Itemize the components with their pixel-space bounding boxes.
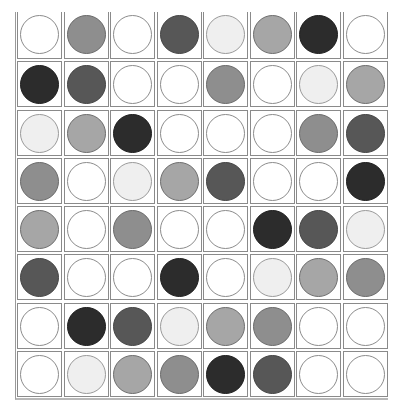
- board-cell-r5-c5[interactable]: [203, 206, 248, 252]
- piece-dark-icon: [299, 210, 338, 249]
- board-cell-r6-c4[interactable]: [157, 254, 202, 300]
- piece-white-icon: [160, 210, 199, 249]
- piece-white-icon: [206, 114, 245, 153]
- board-cell-r7-c1[interactable]: [17, 303, 62, 349]
- piece-white-icon: [20, 15, 59, 54]
- board-cell-r3-c2[interactable]: [64, 110, 109, 156]
- board-cell-r3-c6[interactable]: [250, 110, 295, 156]
- board-cell-r4-c5[interactable]: [203, 158, 248, 204]
- piece-light-icon: [20, 114, 59, 153]
- board-cell-r8-c7[interactable]: [296, 351, 341, 397]
- board-cell-r1-c4[interactable]: [157, 12, 202, 59]
- board-cell-r5-c7[interactable]: [296, 206, 341, 252]
- piece-medium-icon: [67, 15, 106, 54]
- board-cell-r2-c5[interactable]: [203, 61, 248, 107]
- board-cell-r3-c3[interactable]: [110, 110, 155, 156]
- piece-darkest-icon: [160, 258, 199, 297]
- board-cell-r5-c3[interactable]: [110, 206, 155, 252]
- board-cell-r7-c8[interactable]: [343, 303, 388, 349]
- board-cell-r7-c6[interactable]: [250, 303, 295, 349]
- board-cell-r4-c6[interactable]: [250, 158, 295, 204]
- board-cell-r8-c5[interactable]: [203, 351, 248, 397]
- board-cell-r1-c5[interactable]: [203, 12, 248, 59]
- board-cell-r8-c2[interactable]: [64, 351, 109, 397]
- piece-dark-icon: [67, 65, 106, 104]
- piece-white-icon: [299, 162, 338, 201]
- board-cell-r4-c8[interactable]: [343, 158, 388, 204]
- piece-darkest-icon: [206, 355, 245, 394]
- piece-dark-icon: [20, 258, 59, 297]
- board-cell-r7-c2[interactable]: [64, 303, 109, 349]
- board-cell-r1-c1[interactable]: [17, 12, 62, 59]
- piece-dark-icon: [253, 355, 292, 394]
- piece-white-icon: [20, 355, 59, 394]
- board-cell-r5-c1[interactable]: [17, 206, 62, 252]
- board-cell-r5-c8[interactable]: [343, 206, 388, 252]
- board-cell-r1-c7[interactable]: [296, 12, 341, 59]
- board-cell-r6-c8[interactable]: [343, 254, 388, 300]
- board-cell-r8-c1[interactable]: [17, 351, 62, 397]
- board-cell-r4-c1[interactable]: [17, 158, 62, 204]
- piece-light-icon: [253, 258, 292, 297]
- piece-white-icon: [346, 355, 385, 394]
- game-board: [16, 12, 388, 398]
- board-cell-r5-c2[interactable]: [64, 206, 109, 252]
- piece-white-icon: [67, 258, 106, 297]
- board-cell-r7-c5[interactable]: [203, 303, 248, 349]
- piece-white-icon: [113, 258, 152, 297]
- board-cell-r6-c3[interactable]: [110, 254, 155, 300]
- board-cell-r4-c7[interactable]: [296, 158, 341, 204]
- board-cell-r2-c6[interactable]: [250, 61, 295, 107]
- board-cell-r4-c3[interactable]: [110, 158, 155, 204]
- board-cell-r8-c4[interactable]: [157, 351, 202, 397]
- piece-white-icon: [346, 15, 385, 54]
- board-cell-r8-c3[interactable]: [110, 351, 155, 397]
- piece-white-icon: [299, 355, 338, 394]
- board-cell-r3-c1[interactable]: [17, 110, 62, 156]
- piece-white-icon: [67, 162, 106, 201]
- piece-white-icon: [253, 114, 292, 153]
- piece-dark-icon: [206, 162, 245, 201]
- board-cell-r1-c6[interactable]: [250, 12, 295, 59]
- board-cell-r5-c6[interactable]: [250, 206, 295, 252]
- board-cell-r8-c6[interactable]: [250, 351, 295, 397]
- board-cell-r6-c7[interactable]: [296, 254, 341, 300]
- piece-darkest-icon: [299, 15, 338, 54]
- board-cell-r2-c3[interactable]: [110, 61, 155, 107]
- board-cell-r8-c8[interactable]: [343, 351, 388, 397]
- board-cell-r2-c7[interactable]: [296, 61, 341, 107]
- board-cell-r3-c4[interactable]: [157, 110, 202, 156]
- board-cell-r3-c5[interactable]: [203, 110, 248, 156]
- board-cell-r6-c6[interactable]: [250, 254, 295, 300]
- board-cell-r4-c4[interactable]: [157, 158, 202, 204]
- board-cell-r2-c4[interactable]: [157, 61, 202, 107]
- piece-medium-icon: [160, 355, 199, 394]
- board-cell-r2-c2[interactable]: [64, 61, 109, 107]
- board-cell-r1-c8[interactable]: [343, 12, 388, 59]
- board-cell-r3-c8[interactable]: [343, 110, 388, 156]
- piece-white-icon: [160, 114, 199, 153]
- board-cell-r2-c8[interactable]: [343, 61, 388, 107]
- board-cell-r7-c3[interactable]: [110, 303, 155, 349]
- piece-medium-icon: [113, 210, 152, 249]
- piece-medium-light-icon: [206, 307, 245, 346]
- piece-white-icon: [67, 210, 106, 249]
- board-cell-r1-c3[interactable]: [110, 12, 155, 59]
- board-cell-r6-c5[interactable]: [203, 254, 248, 300]
- board-cell-r1-c2[interactable]: [64, 12, 109, 59]
- board-cell-r7-c7[interactable]: [296, 303, 341, 349]
- piece-white-icon: [206, 258, 245, 297]
- piece-dark-icon: [113, 307, 152, 346]
- piece-dark-icon: [346, 114, 385, 153]
- board-cell-r5-c4[interactable]: [157, 206, 202, 252]
- board-cell-r2-c1[interactable]: [17, 61, 62, 107]
- board-cell-r3-c7[interactable]: [296, 110, 341, 156]
- board-cell-r7-c4[interactable]: [157, 303, 202, 349]
- piece-white-icon: [253, 65, 292, 104]
- board-cell-r6-c2[interactable]: [64, 254, 109, 300]
- piece-medium-light-icon: [67, 114, 106, 153]
- board-cell-r6-c1[interactable]: [17, 254, 62, 300]
- piece-darkest-icon: [253, 210, 292, 249]
- piece-white-icon: [346, 307, 385, 346]
- board-cell-r4-c2[interactable]: [64, 158, 109, 204]
